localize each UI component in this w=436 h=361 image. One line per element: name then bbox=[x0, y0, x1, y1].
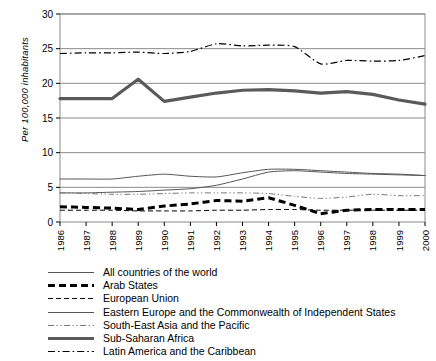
line-chart: Per 100,000 inhabitants 0510152025301986… bbox=[0, 0, 436, 361]
y-tick-label: 0 bbox=[47, 217, 53, 228]
x-tick-label: 1990 bbox=[159, 230, 170, 251]
y-tick-label: 30 bbox=[42, 9, 54, 20]
x-tick-label: 1989 bbox=[133, 230, 144, 251]
legend-label: Sub-Saharan Africa bbox=[103, 332, 194, 345]
x-tick-label: 1988 bbox=[107, 230, 118, 251]
x-tick-label: 1986 bbox=[55, 230, 66, 251]
plot-area: Per 100,000 inhabitants 0510152025301986… bbox=[0, 0, 436, 268]
y-tick-label: 25 bbox=[42, 43, 54, 54]
legend-label: Arab States bbox=[103, 279, 158, 292]
legend-label: Latin America and the Caribbean bbox=[103, 345, 256, 358]
y-tick-label: 5 bbox=[47, 182, 53, 193]
legend-sample-svg bbox=[47, 332, 95, 345]
x-tick-label: 1993 bbox=[237, 230, 248, 251]
legend-line-sample bbox=[47, 345, 95, 358]
legend-line-sample bbox=[47, 266, 95, 279]
x-tick-label: 1991 bbox=[185, 230, 196, 251]
legend-line-sample bbox=[47, 332, 95, 345]
x-tick-label: 1997 bbox=[341, 230, 352, 251]
legend-label: Eastern Europe and the Commonwealth of I… bbox=[103, 306, 395, 319]
legend-sample-svg bbox=[47, 292, 95, 305]
legend-sample-svg bbox=[47, 266, 95, 279]
x-tick-label: 1987 bbox=[81, 230, 92, 251]
y-tick-label: 10 bbox=[42, 147, 54, 158]
x-tick-label: 1992 bbox=[211, 230, 222, 251]
legend-label: South-East Asia and the Pacific bbox=[103, 319, 250, 332]
x-tick-label: 1999 bbox=[394, 230, 405, 251]
y-tick-label: 20 bbox=[42, 78, 54, 89]
legend-label: European Union bbox=[103, 292, 179, 305]
legend-sample-svg bbox=[47, 319, 95, 332]
legend-label: All countries of the world bbox=[103, 266, 217, 279]
legend-item: Latin America and the Caribbean bbox=[0, 345, 436, 358]
legend-line-sample bbox=[47, 319, 95, 332]
legend-line-sample bbox=[47, 292, 95, 305]
legend-line-sample bbox=[47, 306, 95, 319]
x-tick-label: 1996 bbox=[315, 230, 326, 251]
legend-sample-svg bbox=[47, 345, 95, 358]
x-tick-label: 1994 bbox=[263, 230, 274, 251]
x-tick-label: 1995 bbox=[289, 230, 300, 251]
legend-item: European Union bbox=[0, 292, 436, 305]
chart-legend: All countries of the worldArab StatesEur… bbox=[0, 266, 436, 361]
y-tick-label: 15 bbox=[42, 113, 54, 124]
legend-item: Eastern Europe and the Commonwealth of I… bbox=[0, 306, 436, 319]
y-axis-title: Per 100,000 inhabitants bbox=[19, 20, 30, 160]
chart-svg: 0510152025301986198719881989199019911992… bbox=[0, 0, 436, 268]
legend-sample-svg bbox=[47, 279, 95, 292]
legend-item: All countries of the world bbox=[0, 266, 436, 279]
x-tick-label: 1998 bbox=[367, 230, 378, 251]
legend-sample-svg bbox=[47, 306, 95, 319]
legend-item: South-East Asia and the Pacific bbox=[0, 319, 436, 332]
legend-item: Arab States bbox=[0, 279, 436, 292]
x-tick-label: 2000 bbox=[420, 230, 431, 251]
legend-item: Sub-Saharan Africa bbox=[0, 332, 436, 345]
legend-line-sample bbox=[47, 279, 95, 292]
